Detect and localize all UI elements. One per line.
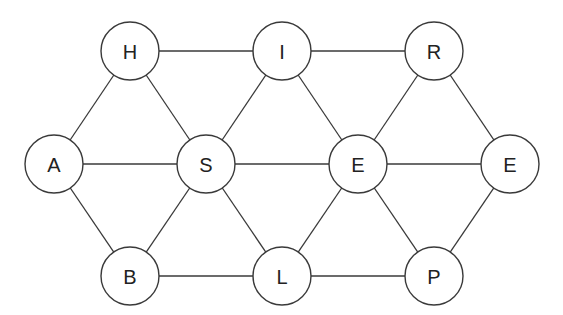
node-l: L: [253, 247, 311, 305]
node-label: P: [427, 266, 440, 288]
node-b: B: [101, 247, 159, 305]
node-label: L: [276, 266, 287, 288]
node-h: H: [101, 22, 159, 80]
letter-graph-diagram: HIRASEEBLP: [0, 0, 563, 315]
node-label: S: [199, 154, 212, 176]
node-p: P: [405, 247, 463, 305]
node-label: H: [123, 41, 137, 63]
node-label: I: [279, 41, 285, 63]
node-e1: E: [329, 135, 387, 193]
node-i: I: [253, 22, 311, 80]
node-s: S: [177, 135, 235, 193]
node-a: A: [25, 135, 83, 193]
node-label: R: [427, 41, 441, 63]
edges-layer: [54, 51, 510, 276]
node-r: R: [405, 22, 463, 80]
node-label: E: [503, 154, 516, 176]
node-label: B: [123, 266, 136, 288]
node-e2: E: [481, 135, 539, 193]
node-label: A: [47, 154, 61, 176]
node-label: E: [351, 154, 364, 176]
